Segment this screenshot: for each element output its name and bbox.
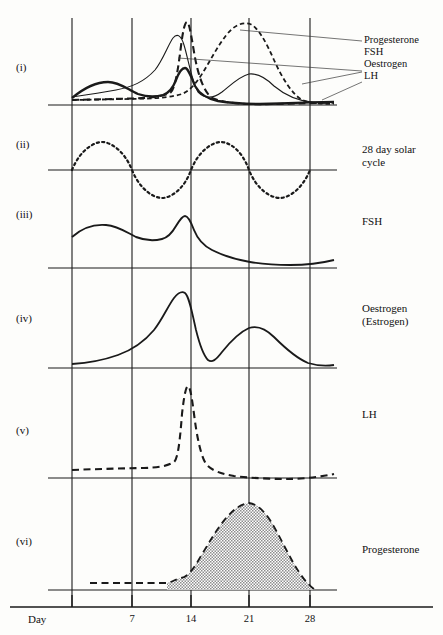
panel-vi [48, 503, 337, 590]
x-axis-title: Day [28, 613, 46, 625]
panel-label-iv: (iv) [16, 312, 32, 324]
panel-caption-lh: LH [362, 408, 377, 421]
legend-item-lh: LH [364, 70, 378, 82]
panel-caption-fsh: FSH [362, 215, 382, 228]
panel-v [48, 386, 337, 479]
panel-i [48, 22, 362, 105]
x-tick-label-28: 28 [298, 613, 322, 624]
x-tick-label-14: 14 [179, 613, 203, 624]
panel-label-ii: (ii) [16, 138, 29, 150]
x-tick-label-21: 21 [237, 613, 261, 624]
panel-label-iii: (iii) [16, 208, 33, 220]
panel-iv [48, 292, 337, 368]
leader-lh [322, 82, 362, 100]
legend-item-progesterone: Progesterone [364, 34, 419, 46]
legend-item-fsh: FSH [364, 46, 383, 58]
legend-item-oestrogen: Oestrogen [364, 58, 407, 70]
panel-iv-oestrogen-curve [72, 292, 334, 365]
panel-vi-progesterone-fill [167, 503, 314, 590]
x-axis [10, 595, 433, 607]
panel-iii-fsh-curve [72, 216, 334, 265]
panel-label-vi: (vi) [16, 535, 32, 547]
panel-i-lh-curve [72, 22, 334, 104]
panel-label-i: (i) [16, 61, 26, 73]
x-axis-ticks [72, 595, 310, 607]
panel-caption-oestrogen: Oestrogen (Estrogen) [362, 302, 408, 327]
panel-v-lh-curve [72, 386, 334, 479]
panel-ii [48, 142, 337, 198]
panel-label-v: (v) [16, 424, 29, 436]
panel-iii [48, 216, 337, 268]
x-tick-label-7: 7 [120, 613, 144, 624]
leader-progesterone [240, 30, 362, 41]
panel-caption-progesterone: Progesterone [362, 543, 419, 556]
leader-oestrogen [302, 72, 362, 84]
panel-i-progesterone-curve [72, 23, 334, 104]
panel-i-oestrogen-curve [72, 35, 334, 102]
gridlines [72, 18, 310, 607]
panel-caption-solar-cycle: 28 day solar cycle [362, 143, 416, 168]
